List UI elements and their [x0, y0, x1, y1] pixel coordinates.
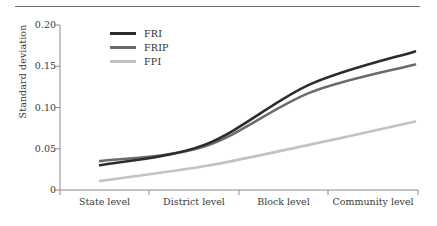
figure-container: Standard deviation 0.20 0.15 0.10 0.05 0… — [0, 0, 437, 226]
legend-item-fpi: FPI — [110, 54, 230, 68]
legend-swatch-fpi — [110, 60, 136, 63]
legend-swatch-fri — [110, 32, 136, 35]
series-line-frip — [100, 65, 415, 162]
series-line-fri — [100, 51, 415, 165]
x-tick-label-district: District level — [149, 196, 239, 207]
legend-item-frip: FRIP — [110, 40, 230, 54]
series-line-fpi — [100, 122, 415, 181]
x-tick-label-state: State level — [60, 196, 149, 207]
legend-label-frip: FRIP — [144, 42, 169, 53]
x-tick-label-community: Community level — [328, 196, 418, 207]
chart-legend: FRI FRIP FPI — [110, 26, 230, 68]
x-tick-label-block: Block level — [239, 196, 328, 207]
legend-label-fpi: FPI — [144, 56, 161, 67]
legend-swatch-frip — [110, 46, 136, 49]
legend-label-fri: FRI — [144, 28, 162, 39]
legend-item-fri: FRI — [110, 26, 230, 40]
